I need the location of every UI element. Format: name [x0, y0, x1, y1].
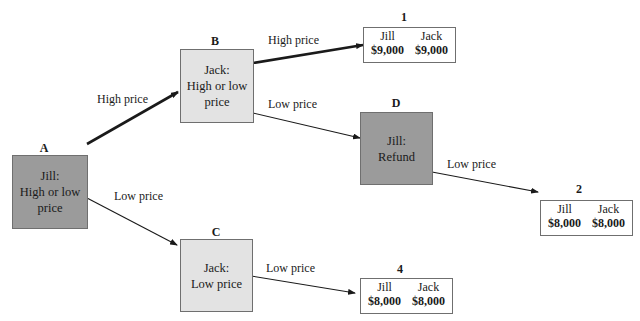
node-c-line: Low price: [191, 276, 242, 292]
player-payoff: $9,000: [415, 43, 448, 57]
node-c-label: C: [206, 225, 226, 240]
outcome-1-jill: Jill $9,000: [371, 29, 404, 62]
player-name: Jack: [415, 29, 448, 43]
outcome-2-payoff-box: Jill $8,000 Jack $8,000: [540, 200, 633, 236]
edge-d-2: [432, 172, 538, 192]
edge-label-b-1: High price: [268, 33, 319, 48]
decision-tree-edges: [0, 0, 640, 321]
node-b-line: High or low: [187, 78, 247, 94]
outcome-4-payoff-box: Jill $8,000 Jack $8,000: [360, 278, 453, 314]
node-a-jill-choice: Jill: High or low price: [12, 155, 88, 229]
edge-b-d: [253, 113, 360, 138]
node-b-line: Jack:: [187, 62, 247, 78]
player-payoff: $8,000: [592, 216, 625, 230]
edge-c-4: [251, 276, 355, 293]
node-b-line: price: [187, 94, 247, 110]
edge-label-a-c: Low price: [114, 189, 163, 204]
node-d-line: Refund: [378, 149, 415, 165]
edge-label-d-2: Low price: [447, 157, 496, 172]
player-name: Jack: [592, 202, 625, 216]
node-d-line: Jill:: [378, 133, 415, 149]
outcome-1-payoff-box: Jill $9,000 Jack $9,000: [363, 27, 456, 63]
node-c-jack-choice: Jack: Low price: [180, 239, 253, 312]
node-a-line: price: [20, 200, 80, 216]
player-payoff: $8,000: [412, 294, 445, 308]
node-a-label: A: [34, 141, 54, 156]
outcome-2-jack: Jack $8,000: [592, 202, 625, 235]
node-d-label: D: [386, 96, 406, 111]
node-a-line: Jill:: [20, 168, 80, 184]
node-b-label: B: [205, 34, 225, 49]
node-b-jack-choice: Jack: High or low price: [180, 49, 254, 123]
edge-a-c: [87, 198, 177, 245]
outcome-2-jill: Jill $8,000: [548, 202, 581, 235]
player-name: Jill: [548, 202, 581, 216]
outcome-2-label: 2: [569, 182, 589, 197]
edge-label-c-4: Low price: [266, 261, 315, 276]
player-payoff: $8,000: [548, 216, 581, 230]
node-c-line: Jack:: [191, 260, 242, 276]
outcome-1-jack: Jack $9,000: [415, 29, 448, 62]
outcome-1-label: 1: [394, 10, 414, 25]
node-d-jill-refund: Jill: Refund: [360, 112, 433, 185]
edge-label-a-b: High price: [97, 92, 148, 107]
outcome-4-jill: Jill $8,000: [368, 280, 401, 313]
node-a-line: High or low: [20, 184, 80, 200]
player-payoff: $8,000: [368, 294, 401, 308]
player-name: Jill: [368, 280, 401, 294]
outcome-4-jack: Jack $8,000: [412, 280, 445, 313]
player-payoff: $9,000: [371, 43, 404, 57]
player-name: Jill: [371, 29, 404, 43]
player-name: Jack: [412, 280, 445, 294]
outcome-4-label: 4: [390, 262, 410, 277]
edge-label-b-d: Low price: [268, 97, 317, 112]
